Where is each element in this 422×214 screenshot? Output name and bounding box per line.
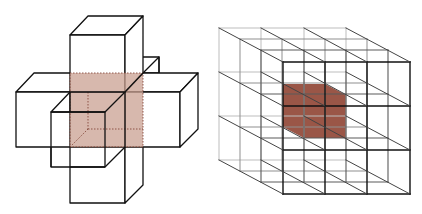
von-neumann-neighborhood-diagram <box>0 0 211 214</box>
lattice-depth-edges <box>219 28 410 194</box>
lattice-layer-front <box>283 62 410 194</box>
back-cube <box>143 57 159 73</box>
center-cube-highlight <box>283 84 346 138</box>
lattice-layer-2 <box>240 39 367 171</box>
lattice-layer-3 <box>261 50 388 182</box>
lattice-layer-back <box>219 28 346 160</box>
figure <box>0 0 422 214</box>
